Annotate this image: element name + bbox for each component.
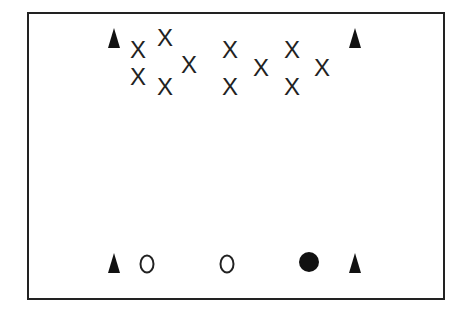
cone-icon bbox=[108, 253, 120, 273]
player-x-marker: X bbox=[284, 38, 300, 62]
player-x-marker: X bbox=[284, 75, 300, 99]
cone-icon bbox=[108, 28, 120, 48]
cone-icon bbox=[349, 253, 361, 273]
player-x-marker: X bbox=[130, 38, 146, 62]
player-o-marker bbox=[220, 255, 235, 274]
player-x-marker: X bbox=[222, 38, 238, 62]
player-x-marker: X bbox=[253, 56, 269, 80]
player-x-marker: X bbox=[222, 75, 238, 99]
player-x-marker: X bbox=[130, 65, 146, 89]
player-x-marker: X bbox=[314, 56, 330, 80]
cone-icon bbox=[349, 28, 361, 48]
player-o-marker bbox=[140, 255, 155, 274]
player-x-marker: X bbox=[157, 26, 173, 50]
ball-icon bbox=[299, 252, 319, 272]
player-x-marker: X bbox=[181, 53, 197, 77]
player-x-marker: X bbox=[157, 75, 173, 99]
